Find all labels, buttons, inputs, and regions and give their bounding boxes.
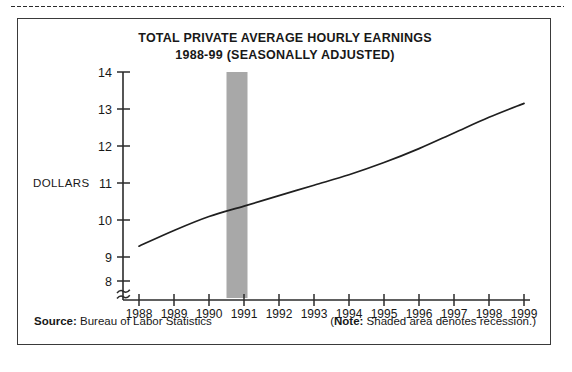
source-value: Bureau of Labor Statistics <box>77 315 212 327</box>
svg-text:14: 14 <box>98 66 112 80</box>
svg-text:11: 11 <box>99 177 112 191</box>
recession-note: (Note: Shaded area denotes recession.) <box>330 315 536 327</box>
line-chart-plot: 14 13 12 11 10 9 8 <box>18 19 552 319</box>
svg-text:12: 12 <box>98 140 112 154</box>
svg-text:13: 13 <box>98 103 112 117</box>
source-note: Source: Bureau of Labor Statistics <box>34 315 212 327</box>
recession-shaded-band <box>227 72 248 298</box>
figure-footer: Source: Bureau of Labor Statistics (Note… <box>18 315 552 333</box>
note-label: Note: <box>334 315 363 327</box>
svg-text:9: 9 <box>105 251 112 265</box>
figure-container: TOTAL PRIVATE AVERAGE HOURLY EARNINGS 19… <box>17 18 551 345</box>
svg-text:8: 8 <box>105 275 112 289</box>
y-axis-ticks: 14 13 12 11 10 9 8 <box>98 66 130 289</box>
source-label: Source: <box>34 315 77 327</box>
earnings-line-series <box>139 103 524 246</box>
note-value: Shaded area denotes recession.) <box>363 315 536 327</box>
top-dotted-rule <box>10 5 564 8</box>
svg-text:10: 10 <box>98 214 112 228</box>
